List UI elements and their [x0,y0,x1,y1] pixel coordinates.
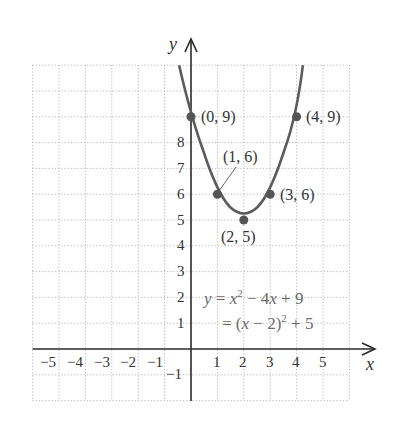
svg-text:3: 3 [177,263,185,279]
svg-text:5: 5 [177,212,185,228]
x-tick-labels: −5 −4 −3 −2 −1 1 2 3 4 5 [40,354,327,370]
svg-text:4: 4 [292,354,300,370]
svg-text:−5: −5 [40,354,56,370]
svg-text:5: 5 [319,354,327,370]
point-0-9 [187,112,196,121]
leader-line-1-6 [219,167,236,191]
svg-text:7: 7 [177,160,185,176]
label-point-4-9: (4, 9) [306,108,341,126]
svg-text:1: 1 [177,315,185,331]
equation-annotation: y = x2 − 4x + 9 = (x − 2)2 + 5 [202,287,313,333]
x-axis-label: x [365,354,374,374]
equation-line-1: y = x2 − 4x + 9 [202,287,303,308]
svg-text:2: 2 [239,354,247,370]
label-point-0-9: (0, 9) [201,108,236,126]
svg-text:−4: −4 [67,354,83,370]
point-2-5 [239,216,248,225]
y-tick-labels: −1 1 2 3 4 5 6 7 8 [166,134,185,382]
point-4-9 [292,112,301,121]
svg-text:−3: −3 [94,354,110,370]
svg-text:3: 3 [266,354,274,370]
svg-text:−1: −1 [166,366,182,382]
label-point-3-6: (3, 6) [280,186,315,204]
svg-text:2: 2 [177,289,185,305]
point-3-6 [266,190,275,199]
equation-line-2: = (x − 2)2 + 5 [222,312,313,333]
svg-text:6: 6 [177,186,185,202]
point-1-6 [213,190,222,199]
svg-text:−2: −2 [120,354,136,370]
svg-text:4: 4 [177,237,185,253]
svg-text:−1: −1 [147,354,163,370]
svg-text:8: 8 [177,134,185,150]
label-point-2-5: (2, 5) [221,228,256,246]
y-axis-label: y [167,34,177,54]
parabola-chart: (0, 9) (1, 6) (2, 5) (3, 6) (4, 9) y x −… [0,0,404,428]
label-point-1-6: (1, 6) [223,148,258,166]
svg-text:1: 1 [213,354,221,370]
